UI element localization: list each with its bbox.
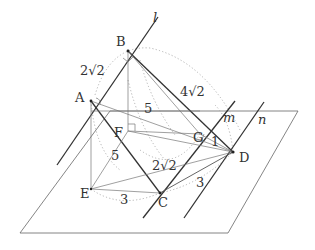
label-line-n: n — [258, 112, 266, 127]
label-A: A — [74, 90, 85, 105]
length-CD: 3 — [196, 175, 204, 190]
label-line-m: m — [223, 110, 235, 125]
point-A — [90, 100, 93, 103]
length-AB: 2√2 — [80, 63, 105, 78]
label-F: F — [114, 125, 123, 140]
length-GD: 1 — [211, 134, 219, 149]
line-l — [57, 17, 158, 165]
length-BD: 4√2 — [180, 84, 205, 99]
label-C: C — [158, 195, 168, 210]
point-B — [127, 50, 130, 53]
label-G: G — [193, 130, 203, 145]
point-D — [231, 150, 234, 153]
segment-FG — [128, 131, 200, 134]
label-D: D — [239, 150, 249, 165]
label-B: B — [116, 34, 126, 49]
length-A-horizontal: 5 — [144, 101, 152, 116]
point-E — [90, 188, 92, 190]
length-CG: 2√2 — [152, 158, 177, 173]
label-line-l: l — [153, 10, 157, 25]
length-EC: 3 — [120, 192, 128, 207]
arc-cg — [140, 134, 200, 159]
point-C — [159, 192, 162, 195]
arc-inner-2 — [128, 80, 165, 160]
geometry-diagram: B A F E C D G l m n 2√2 4√2 5 5 2√2 1 3 … — [0, 0, 315, 250]
length-EF: 5 — [111, 148, 119, 163]
label-E: E — [80, 186, 90, 201]
right-angle-F — [128, 124, 135, 131]
